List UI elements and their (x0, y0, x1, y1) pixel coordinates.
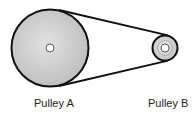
pulley-b-hole (161, 44, 169, 52)
pulley-b-label: Pulley B (148, 97, 188, 109)
pulley-a-label: Pulley A (34, 97, 74, 109)
pulley-a-hole (46, 44, 54, 52)
